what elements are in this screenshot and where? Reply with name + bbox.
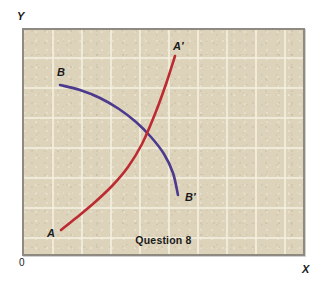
figure-root: Y X 0 A A′ B B′ Question 8 xyxy=(0,0,324,285)
x-axis-label: X xyxy=(302,264,309,275)
plot-area: A A′ B B′ Question 8 xyxy=(22,28,305,256)
plot-inner: A A′ B B′ Question 8 xyxy=(24,30,303,254)
curves xyxy=(24,30,303,254)
curve-a-to-a-prime xyxy=(61,56,175,230)
y-axis-label: Y xyxy=(17,11,24,22)
figure-caption: Question 8 xyxy=(24,234,303,246)
curve-label-b: B xyxy=(57,67,65,78)
origin-label: 0 xyxy=(19,258,25,268)
curve-label-b-prime: B′ xyxy=(185,192,196,203)
curve-label-a-prime: A′ xyxy=(173,41,184,52)
